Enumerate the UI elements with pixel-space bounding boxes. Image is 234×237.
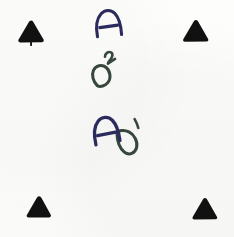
- fiducial-label: ▲: [24, 221, 25, 222]
- fiducial-label: ▲: [16, 46, 17, 47]
- handwritten-mark-d-squared: D 2: [81, 45, 130, 93]
- fiducial-triangle-top-left: ▲: [16, 19, 46, 46]
- annotation-sheet: ▲ ▲ ▲ ▲ A: [0, 0, 234, 237]
- fiducial-triangle-bottom-right: ▲: [190, 196, 220, 223]
- handwritten-mark-a-second: A: [88, 110, 127, 149]
- handwritten-mark-a-top: A: [90, 4, 127, 39]
- mark-text: A: [94, 40, 95, 41]
- fiducial-triangle-bottom-left: ▲: [24, 194, 54, 221]
- fiducial-label: ▲: [181, 45, 182, 46]
- fiducial-triangle-top-right: ▲: [181, 18, 211, 45]
- fiducial-label: ▲: [190, 223, 191, 224]
- mark-text: A: [93, 148, 94, 149]
